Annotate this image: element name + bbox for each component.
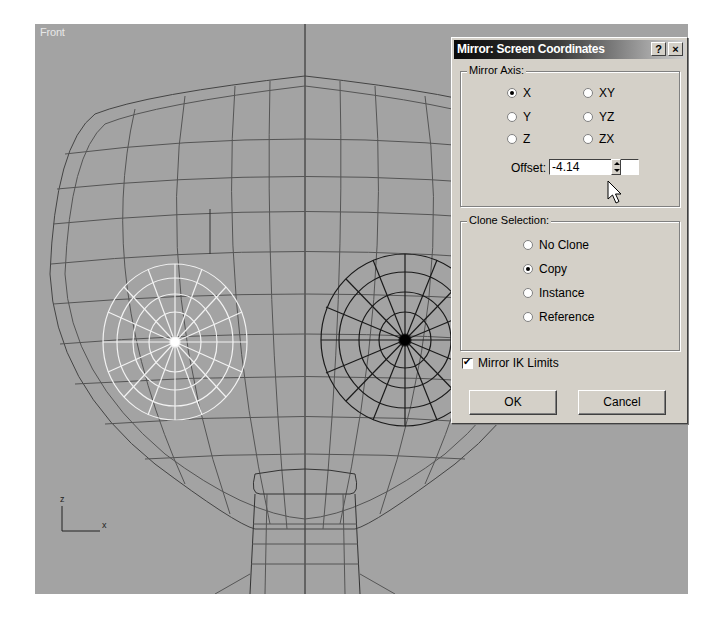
checkbox-label: Mirror IK Limits <box>478 356 559 370</box>
ok-button[interactable]: OK <box>469 390 557 415</box>
radio-instance[interactable]: Instance <box>523 286 584 300</box>
radio-no-clone[interactable]: No Clone <box>523 238 589 252</box>
offset-spinner[interactable] <box>611 159 621 175</box>
radio-copy[interactable]: Copy <box>523 262 567 276</box>
radio-reference[interactable]: Reference <box>523 310 594 324</box>
offset-input[interactable] <box>549 159 639 175</box>
radio-icon[interactable] <box>523 312 533 322</box>
radio-axis-zx[interactable]: ZX <box>583 132 614 146</box>
radio-icon[interactable] <box>507 134 517 144</box>
radio-selected-icon[interactable] <box>507 88 517 98</box>
spinner-up-icon[interactable] <box>614 162 620 165</box>
mirror-axis-label: Mirror Axis: <box>467 64 526 76</box>
radio-axis-x[interactable]: X <box>507 86 531 100</box>
axis-tripod: z x <box>45 494 105 564</box>
radio-label: ZX <box>599 132 614 146</box>
radio-selected-icon[interactable] <box>523 264 533 274</box>
radio-label: No Clone <box>539 238 589 252</box>
help-button[interactable]: ? <box>651 42 666 56</box>
mirror-axis-group: Mirror Axis: X Y Z XY YZ ZX Offset: <box>460 71 680 207</box>
radio-axis-xy[interactable]: XY <box>583 86 615 100</box>
radio-label: Z <box>523 132 530 146</box>
radio-icon[interactable] <box>583 112 593 122</box>
radio-label: Copy <box>539 262 567 276</box>
dialog-title: Mirror: Screen Coordinates <box>457 42 605 56</box>
axis-lines-icon <box>45 494 105 544</box>
radio-icon[interactable] <box>523 288 533 298</box>
radio-axis-y[interactable]: Y <box>507 110 531 124</box>
radio-icon[interactable] <box>523 240 533 250</box>
cancel-button[interactable]: Cancel <box>578 390 666 415</box>
radio-icon[interactable] <box>583 134 593 144</box>
mouse-pointer-icon <box>607 180 625 206</box>
mirror-ik-limits-checkbox[interactable]: Mirror IK Limits <box>462 356 559 370</box>
viewport-label[interactable]: Front <box>40 26 65 38</box>
radio-icon[interactable] <box>507 112 517 122</box>
radio-axis-yz[interactable]: YZ <box>583 110 614 124</box>
radio-label: Reference <box>539 310 594 324</box>
offset-label: Offset: <box>511 161 546 175</box>
radio-label: XY <box>599 86 615 100</box>
clone-selection-group: Clone Selection: No Clone Copy Instance … <box>460 221 680 351</box>
radio-label: Y <box>523 110 531 124</box>
radio-axis-z[interactable]: Z <box>507 132 530 146</box>
radio-label: Instance <box>539 286 584 300</box>
dialog-titlebar[interactable]: Mirror: Screen Coordinates ? × <box>454 40 685 59</box>
checkbox-checked-icon[interactable] <box>462 358 473 369</box>
close-button[interactable]: × <box>668 42 683 56</box>
mirror-dialog: Mirror: Screen Coordinates ? × Mirror Ax… <box>451 37 688 424</box>
radio-label: X <box>523 86 531 100</box>
clone-selection-label: Clone Selection: <box>467 214 551 226</box>
radio-icon[interactable] <box>583 88 593 98</box>
radio-label: YZ <box>599 110 614 124</box>
spinner-down-icon[interactable] <box>614 169 620 172</box>
